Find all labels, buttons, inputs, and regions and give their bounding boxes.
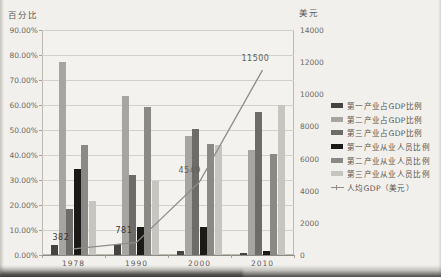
bar (278, 105, 285, 255)
right-axis-tick-label: 8000 (300, 122, 319, 131)
bar (270, 154, 277, 255)
legend-swatch (331, 144, 343, 149)
bar (74, 169, 81, 255)
line-point-label: 11500 (242, 54, 270, 63)
bar (144, 107, 151, 255)
left-axis-tick-label: 80.00% (2, 51, 38, 60)
bar (66, 209, 73, 256)
right-axis-tick-label: 14000 (300, 26, 324, 35)
left-axis-tick-label: 50.00% (2, 126, 38, 135)
left-axis-tick-label: 40.00% (2, 151, 38, 160)
right-axis-tick-label: 12000 (300, 58, 324, 67)
line-point-label: 4549 (179, 166, 201, 175)
chart-canvas: 百分比 美元 382781454911500 90.00%80.00%70.00… (0, 0, 441, 277)
legend-item: 第二产业占GDP比例 (331, 113, 430, 127)
bar (59, 62, 66, 256)
bar (137, 227, 144, 255)
left-axis-tick-label: 90.00% (2, 26, 38, 35)
left-axis-tick-label: 70.00% (2, 76, 38, 85)
gridline (42, 105, 294, 106)
bar (81, 145, 88, 255)
left-axis-tickmark (39, 205, 42, 206)
bar (263, 251, 270, 256)
bar (255, 112, 262, 255)
left-axis-tick-label: 10.00% (2, 226, 38, 235)
right-axis-tick-label: 2000 (300, 219, 319, 228)
gridline (42, 80, 294, 81)
legend-label: 人均GDP（美元） (347, 182, 414, 193)
right-axis-tick-label: 0 (300, 251, 305, 260)
left-axis-tick-label: 30.00% (2, 176, 38, 185)
bar (129, 175, 136, 255)
line-point-label: 781 (116, 226, 133, 235)
bar (207, 144, 214, 255)
bar (114, 244, 121, 255)
bar (185, 136, 192, 255)
left-axis-tick-label: 20.00% (2, 201, 38, 210)
legend-label: 第一产业占GDP比例 (347, 100, 422, 111)
bar (152, 181, 159, 255)
legend-item: 第三产业从业人员比例 (331, 167, 430, 181)
right-axis-title: 美元 (299, 6, 319, 18)
legend-swatch (331, 171, 343, 176)
scan-shadow-left (0, 0, 4, 277)
left-axis-tickmark (39, 155, 42, 156)
right-axis-tick-label: 4000 (300, 187, 319, 196)
left-axis-tickmark (39, 130, 42, 131)
legend-swatch (331, 117, 343, 122)
left-axis-tickmark (39, 105, 42, 106)
right-axis-tick-label: 6000 (300, 155, 319, 164)
left-axis-tickmark (39, 55, 42, 56)
bar (248, 150, 255, 255)
legend-item: 第二产业从业人员比例 (331, 153, 430, 167)
bar (215, 145, 222, 255)
x-axis-tickmark (105, 255, 106, 258)
left-axis-tick-label: 0.00% (2, 251, 38, 260)
bar (51, 245, 58, 255)
legend-label: 第三产业从业人员比例 (347, 168, 430, 179)
legend-item: 第三产业占GDP比例 (331, 126, 430, 140)
x-axis-tickmark (168, 255, 169, 258)
legend-item: 人均GDP（美元） (331, 181, 430, 195)
legend-label: 第二产业占GDP比例 (347, 114, 422, 125)
legend-label: 第二产业从业人员比例 (347, 155, 430, 166)
x-axis-tickmark (231, 255, 232, 258)
bar (200, 227, 207, 255)
legend: 第一产业占GDP比例第二产业占GDP比例第三产业占GDP比例第一产业从业人员比例… (331, 99, 430, 194)
gridline (42, 30, 294, 31)
line-point-label: 382 (53, 233, 70, 242)
left-axis-tickmark (39, 30, 42, 31)
scan-shadow-bottom-left (0, 268, 243, 277)
left-axis-tickmark (39, 180, 42, 181)
right-axis-tick-label: 10000 (300, 90, 324, 99)
legend-label: 第一产业从业人员比例 (347, 141, 430, 152)
left-axis-tick-label: 60.00% (2, 101, 38, 110)
legend-item: 第一产业从业人员比例 (331, 140, 430, 154)
legend-item: 第一产业占GDP比例 (331, 99, 430, 113)
legend-label: 第三产业占GDP比例 (347, 127, 422, 138)
bar (177, 251, 184, 256)
x-axis-tickmark (42, 255, 43, 258)
bar (240, 253, 247, 255)
legend-line-marker (331, 187, 344, 188)
legend-swatch (331, 130, 343, 135)
x-axis-tickmark (294, 255, 295, 258)
left-axis-tickmark (39, 230, 42, 231)
legend-swatch (331, 158, 343, 163)
left-axis-title: 百分比 (8, 8, 38, 20)
bar (89, 201, 96, 255)
bar (192, 129, 199, 256)
legend-swatch (331, 103, 343, 108)
left-axis-tickmark (39, 80, 42, 81)
